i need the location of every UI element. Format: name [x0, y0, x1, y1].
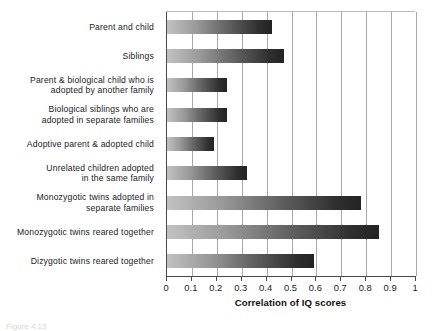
- category-label-line: Monozygotic twins adopted in: [0, 192, 154, 202]
- category-label: Parent & biological child who isadopted …: [0, 75, 154, 95]
- tick-mark-0.5: [291, 276, 292, 281]
- category-label: Monozygotic twins adopted inseparate fam…: [0, 192, 154, 212]
- tick-mark-0.8: [365, 276, 366, 281]
- category-label: Unrelated children adoptedin the same fa…: [0, 163, 154, 183]
- tick-mark-0.2: [216, 276, 217, 281]
- tick-mark-1: [415, 276, 416, 281]
- category-label-line: separate families: [0, 203, 154, 213]
- category-label-line: Dizygotic twins reared together: [0, 256, 154, 266]
- bar: [167, 196, 361, 210]
- bar: [167, 20, 272, 34]
- x-axis-tick-labels: 00.10.20.30.40.50.60.70.80.91: [0, 282, 432, 296]
- bar: [167, 108, 227, 122]
- category-label-line: Monozygotic twins reared together: [0, 227, 154, 237]
- gridline-1: [416, 12, 417, 276]
- category-label-line: Unrelated children adopted: [0, 163, 154, 173]
- gridline-0.9: [391, 12, 392, 276]
- tick-mark-0: [166, 276, 167, 281]
- category-label: Monozygotic twins reared together: [0, 227, 154, 237]
- bar: [167, 137, 214, 151]
- category-label: Adoptive parent & adopted child: [0, 139, 154, 149]
- bar: [167, 166, 247, 180]
- category-label-line: Siblings: [0, 51, 154, 61]
- category-label: Dizygotic twins reared together: [0, 256, 154, 266]
- figure-caption: Figure 4.13: [6, 322, 306, 331]
- iq-correlation-bar-chart: Parent and childSiblingsParent & biologi…: [0, 0, 432, 331]
- category-label: Biological siblings who areadopted in se…: [0, 104, 154, 124]
- category-label: Siblings: [0, 51, 154, 61]
- category-label-line: Biological siblings who are: [0, 104, 154, 114]
- category-axis-labels: Parent and childSiblingsParent & biologi…: [0, 12, 160, 276]
- tick-mark-0.3: [241, 276, 242, 281]
- x-axis-title: Correlation of IQ scores: [166, 297, 415, 308]
- tick-mark-0.9: [390, 276, 391, 281]
- tick-mark-0.7: [340, 276, 341, 281]
- category-label-line: Parent and child: [0, 22, 154, 32]
- bar: [167, 225, 379, 239]
- x-axis-tick-marks: [166, 276, 416, 281]
- category-label-line: Adoptive parent & adopted child: [0, 139, 154, 149]
- category-label-line: adopted by another family: [0, 85, 154, 95]
- tick-label-1: 1: [400, 282, 430, 293]
- category-label-line: in the same family: [0, 173, 154, 183]
- category-label: Parent and child: [0, 22, 154, 32]
- bar: [167, 78, 227, 92]
- tick-mark-0.1: [191, 276, 192, 281]
- category-label-line: Parent & biological child who is: [0, 75, 154, 85]
- tick-mark-0.4: [266, 276, 267, 281]
- category-label-line: adopted in separate families: [0, 115, 154, 125]
- plot-area: [166, 12, 416, 276]
- bar: [167, 254, 314, 268]
- tick-mark-0.6: [315, 276, 316, 281]
- bar: [167, 49, 284, 63]
